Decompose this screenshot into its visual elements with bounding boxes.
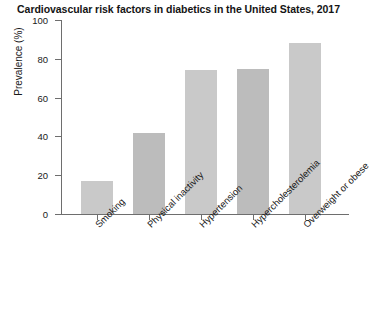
y-axis-tick: [55, 214, 61, 215]
y-axis-tick-label: 0: [8, 209, 48, 220]
y-axis-tick-label: 100: [8, 15, 48, 26]
bar: [133, 133, 165, 214]
y-axis-tick-label: 60: [8, 92, 48, 103]
y-axis-tick-label: 80: [8, 53, 48, 64]
plot-area: [61, 20, 349, 214]
y-axis-tick-label: 40: [8, 131, 48, 142]
chart-title: Cardiovascular risk factors in diabetics…: [0, 3, 357, 15]
y-axis-tick-label: 20: [8, 170, 48, 181]
